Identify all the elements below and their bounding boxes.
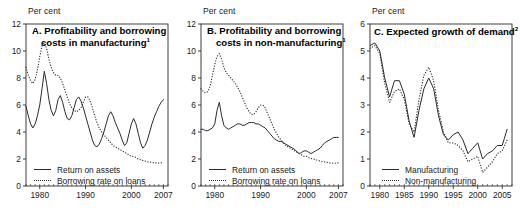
legend-item-return-on-assets: Return on assets: [209, 164, 320, 175]
y-axis-tick-label: 3: [360, 100, 365, 110]
solid-line-swatch-icon: [382, 166, 399, 174]
x-axis-tick-label: 1980: [30, 190, 49, 200]
x-axis-tick-label: 1990: [419, 190, 438, 200]
x-axis-tick-label: 2000: [468, 190, 487, 200]
series-line: [370, 46, 507, 173]
x-axis-tick-label: 2007: [329, 190, 348, 200]
x-axis-tick-label: 1995: [444, 190, 463, 200]
panel-a: Per cent 0246810121980199020002007 A. Pr…: [0, 0, 175, 219]
y-axis-tick-label: 12: [12, 19, 22, 29]
y-axis-tick-label: 8: [191, 73, 196, 83]
y-axis-tick-label: 10: [12, 46, 22, 56]
y-axis-tick-label: 12: [187, 19, 197, 29]
y-axis-tick-label: 8: [16, 73, 21, 83]
legend-label-return-on-assets: Return on assets: [232, 165, 295, 175]
chart-figure: Per cent 0246810121980199020002007 A. Pr…: [0, 0, 520, 219]
y-axis-tick-label: 5: [360, 46, 365, 56]
panel-c-legend: Manufacturing Non-manufacturing: [382, 164, 476, 186]
panel-a-title-line2: costs in manufacturing: [41, 37, 147, 48]
y-axis-tick-label: 4: [16, 127, 21, 137]
panel-b-title-line1: B. Profitability and borrowing: [207, 25, 341, 36]
x-axis-tick-label: 2000: [122, 190, 141, 200]
x-axis-tick-label: 1990: [251, 190, 270, 200]
y-axis-tick-label: 2: [360, 127, 365, 137]
y-axis-tick-label: 0: [191, 181, 196, 191]
panel-c-title-line1: C. Expected growth of demand: [374, 26, 515, 37]
panel-b-legend: Return on assets Borrowing rate on loans: [209, 164, 320, 186]
panel-c-title-superscript: 2: [515, 25, 518, 32]
legend-item-manufacturing: Manufacturing: [382, 164, 476, 175]
y-axis-tick-label: 4: [191, 127, 196, 137]
y-axis-tick-label: 0: [360, 181, 365, 191]
solid-line-swatch-icon: [34, 166, 51, 174]
panel-b: Per cent 0246810121980199020002007 B. Pr…: [175, 0, 350, 219]
x-axis-tick-label: 1980: [205, 190, 224, 200]
panel-a-title-superscript: 1: [147, 36, 150, 43]
legend-item-return-on-assets: Return on assets: [34, 164, 145, 175]
series-line: [370, 43, 507, 159]
y-axis-tick-label: 0: [16, 181, 21, 191]
dotted-line-swatch-icon: [209, 177, 226, 185]
y-axis-tick-label: 1: [360, 154, 365, 164]
panel-b-title: B. Profitability and borrowing costs in …: [207, 26, 346, 49]
y-axis-tick-label: 10: [187, 46, 197, 56]
legend-item-borrowing-rate: Borrowing rate on loans: [209, 175, 320, 186]
x-axis-tick-label: 2005: [493, 190, 512, 200]
dotted-line-swatch-icon: [34, 177, 51, 185]
y-axis-tick-label: 6: [360, 19, 365, 29]
legend-label-borrowing-rate: Borrowing rate on loans: [57, 176, 145, 186]
y-axis-tick-label: 2: [191, 154, 196, 164]
legend-item-non-manufacturing: Non-manufacturing: [382, 175, 476, 186]
solid-line-swatch-icon: [209, 166, 226, 174]
y-axis-tick-label: 6: [191, 100, 196, 110]
series-line: [201, 102, 338, 153]
panel-a-title-line1: A. Profitability and borrowing: [32, 25, 166, 36]
panel-c: Per cent 0123456198019851990199520002005…: [350, 0, 520, 219]
x-axis-tick-label: 1985: [395, 190, 414, 200]
panel-b-title-superscript: 1: [342, 36, 345, 43]
series-line: [201, 54, 338, 163]
legend-item-borrowing-rate: Borrowing rate on loans: [34, 175, 145, 186]
x-axis-tick-label: 1980: [370, 190, 389, 200]
panel-a-title: A. Profitability and borrowing costs in …: [32, 26, 166, 49]
y-axis-tick-label: 6: [16, 100, 21, 110]
panel-c-title: C. Expected growth of demand2: [374, 26, 518, 38]
x-axis-tick-label: 1990: [76, 190, 95, 200]
y-axis-tick-label: 2: [16, 154, 21, 164]
series-line: [26, 71, 163, 148]
panel-b-title-line2: costs in non-manufacturing: [216, 37, 342, 48]
x-axis-tick-label: 2000: [297, 190, 316, 200]
legend-label-borrowing-rate: Borrowing rate on loans: [232, 176, 320, 186]
x-axis-tick-label: 2007: [154, 190, 173, 200]
dotted-line-swatch-icon: [382, 177, 399, 185]
legend-label-non-manufacturing: Non-manufacturing: [405, 176, 476, 186]
panel-a-legend: Return on assets Borrowing rate on loans: [34, 164, 145, 186]
legend-label-return-on-assets: Return on assets: [57, 165, 120, 175]
legend-label-manufacturing: Manufacturing: [405, 165, 458, 175]
y-axis-tick-label: 4: [360, 73, 365, 83]
